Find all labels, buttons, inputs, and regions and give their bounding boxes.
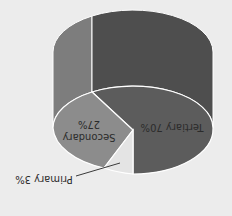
pie-chart-3d: Tertiary 70% Secondary 27% Primary 3%	[0, 0, 232, 216]
label-secondary-name: Secondary	[62, 132, 115, 143]
label-primary: Primary 3%	[15, 174, 73, 185]
label-tertiary: Tertiary 70%	[141, 122, 205, 133]
label-secondary-value: 27%	[78, 119, 100, 130]
